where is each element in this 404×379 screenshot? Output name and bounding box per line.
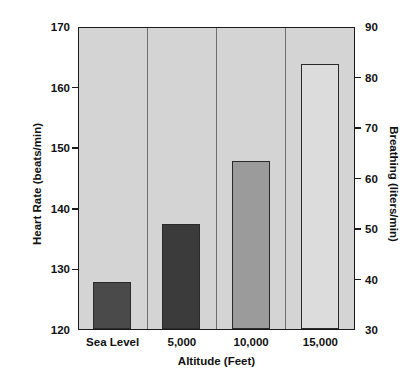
y-axis-left-label: 160 bbox=[30, 82, 70, 94]
y-axis-left-label: 170 bbox=[30, 21, 70, 33]
y-axis-right-label: 70 bbox=[365, 122, 395, 134]
y-axis-right-tick bbox=[355, 228, 361, 230]
bar bbox=[301, 64, 339, 329]
y-axis-left-label: 130 bbox=[30, 263, 70, 275]
plot-area bbox=[78, 27, 355, 330]
y-axis-right-tick bbox=[355, 77, 361, 79]
y-axis-right-label: 60 bbox=[365, 173, 395, 185]
category-divider bbox=[147, 28, 148, 329]
x-axis-tick-label: 15,000 bbox=[274, 336, 367, 348]
bar bbox=[162, 224, 200, 329]
y-axis-right-label: 30 bbox=[365, 324, 395, 336]
y-axis-right-tick bbox=[355, 178, 361, 180]
bar bbox=[232, 161, 270, 329]
y-axis-left-label: 150 bbox=[30, 142, 70, 154]
y-axis-right-tick bbox=[355, 127, 361, 129]
y-axis-right-label: 50 bbox=[365, 223, 395, 235]
category-divider bbox=[216, 28, 217, 329]
y-axis-title-left: Heart Rate (beats/min) bbox=[31, 84, 43, 284]
x-axis-title: Altitude (Feet) bbox=[78, 355, 355, 367]
y-axis-right-label: 80 bbox=[365, 72, 395, 84]
y-axis-right-label: 40 bbox=[365, 274, 395, 286]
bar-chart: Heart Rate (beats/min) Breathing (liters… bbox=[0, 0, 404, 379]
y-axis-left-label: 140 bbox=[30, 203, 70, 215]
category-divider bbox=[285, 28, 286, 329]
y-axis-left-label: 120 bbox=[30, 324, 70, 336]
y-axis-right-tick bbox=[355, 279, 361, 281]
bar bbox=[93, 282, 131, 329]
y-axis-right-label: 90 bbox=[365, 21, 395, 33]
